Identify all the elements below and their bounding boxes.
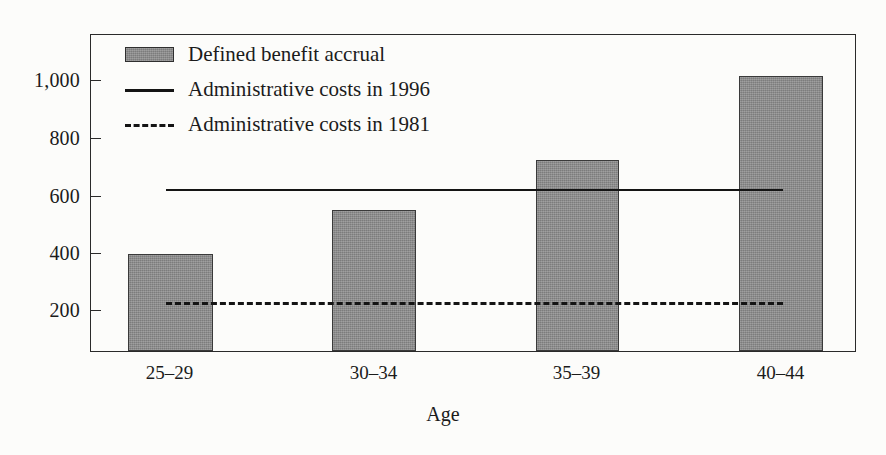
chart-figure: 1,000 800 600 400 200 Defined benefit ac… <box>0 0 886 455</box>
legend-label: Administrative costs in 1996 <box>188 75 430 103</box>
legend-item-defined-benefit-accrual: Defined benefit accrual <box>125 43 545 78</box>
plot-area: Defined benefit accrual Administrative c… <box>90 34 856 352</box>
legend: Defined benefit accrual Administrative c… <box>125 43 545 148</box>
x-axis-tick-label-40-44: 40–44 <box>698 362 863 384</box>
y-axis-tick-label: 600 <box>49 186 80 206</box>
reference-line-1996 <box>166 189 783 191</box>
bar-40-44 <box>739 76 823 351</box>
legend-item-admin-costs-1981: Administrative costs in 1981 <box>125 113 545 148</box>
legend-label: Administrative costs in 1981 <box>188 110 430 138</box>
y-axis-tick-label: 1,000 <box>34 70 80 90</box>
x-axis-tick-label-35-39: 35–39 <box>494 362 659 384</box>
y-axis-tick-label: 800 <box>49 128 80 148</box>
legend-solid-line-icon <box>125 78 175 102</box>
reference-line-1981 <box>166 302 783 305</box>
legend-dashed-line-icon <box>125 113 175 137</box>
y-axis-tick-label: 400 <box>49 243 80 263</box>
y-axis-tick-label: 200 <box>49 300 80 320</box>
x-axis-title: Age <box>0 402 886 426</box>
bar-30-34 <box>332 210 416 351</box>
legend-item-admin-costs-1996: Administrative costs in 1996 <box>125 78 545 113</box>
x-axis-tick-label-30-34: 30–34 <box>291 362 456 384</box>
x-axis-tick-label-25-29: 25–29 <box>87 362 252 384</box>
legend-swatch-icon <box>125 43 175 67</box>
legend-label: Defined benefit accrual <box>188 40 385 68</box>
